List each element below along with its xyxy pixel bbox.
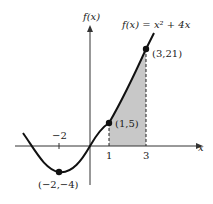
function-graph: f(x) x f(x) = x² + 4x (3,21) (1,5) (−2,−…	[0, 0, 213, 204]
y-axis-arrow-icon	[87, 25, 93, 32]
tick-label-3: 3	[143, 150, 149, 161]
point-label-1-5: (1,5)	[115, 118, 139, 129]
x-axis-label: x	[198, 142, 204, 153]
point-1-5	[106, 120, 112, 126]
tick-label-1: 1	[106, 150, 112, 161]
tick-label-neg2: −2	[52, 130, 67, 141]
y-axis-label: f(x)	[82, 11, 100, 22]
shaded-area	[109, 49, 146, 146]
point-label-3-21: (3,21)	[152, 48, 182, 59]
point-vertex	[56, 169, 62, 175]
point-label-vertex: (−2,−4)	[38, 179, 79, 190]
point-3-21	[143, 46, 149, 52]
function-label: f(x) = x² + 4x	[121, 19, 191, 30]
